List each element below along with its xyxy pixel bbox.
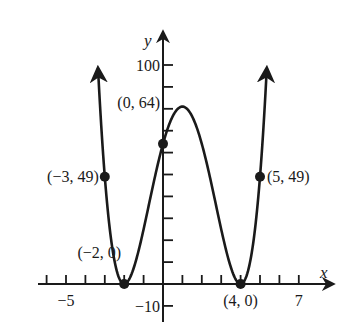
data-point: (5, 49) [255,168,310,186]
y-axis-label: y [142,31,152,50]
y-tick-label: 100 [136,57,160,74]
data-point: (0, 64) [117,94,168,149]
polynomial-graph: x y −57100−10 (−3, 49)(−2, 0)(0, 64)(4, … [0,0,349,333]
point-label: (4, 0) [223,292,258,310]
x-axis: x [38,263,333,284]
point-marker [255,172,265,182]
x-axis-ticks [47,275,299,284]
data-point: (−3, 49) [47,168,110,186]
labeled-points: (−3, 49)(−2, 0)(0, 64)(4, 0)(5, 49) [47,94,310,310]
point-marker [100,172,110,182]
point-marker [158,139,168,149]
x-axis-label: x [319,263,328,282]
x-tick-label: −5 [57,292,74,309]
point-label: (0, 64) [117,94,160,112]
point-label: (−3, 49) [47,168,99,186]
point-marker [119,279,129,289]
y-axis: y [142,31,173,322]
point-marker [236,279,246,289]
x-tick-label: 7 [295,292,303,309]
y-axis-ticks [163,65,173,306]
point-label: (5, 49) [267,168,310,186]
point-label: (−2, 0) [78,244,122,262]
y-tick-label: −10 [135,298,160,315]
